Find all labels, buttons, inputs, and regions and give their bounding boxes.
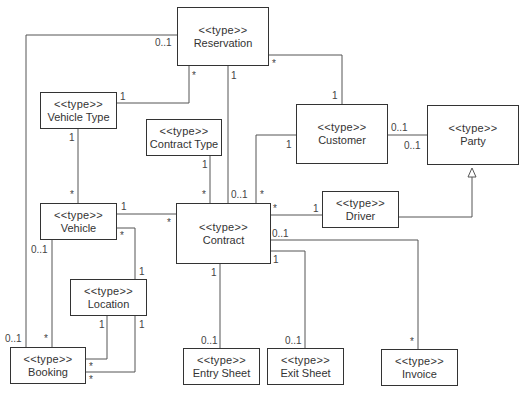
multiplicity-label: * <box>273 204 277 214</box>
multiplicity-label: * <box>120 231 124 241</box>
multiplicity-label: 1 <box>69 133 75 143</box>
class-name: Contract <box>203 234 245 247</box>
generalization-arrow-icon <box>468 168 476 177</box>
class-name: Driver <box>346 210 375 223</box>
multiplicity-label: * <box>202 190 206 200</box>
multiplicity-label: 1 <box>120 92 126 102</box>
class-party[interactable]: <<type>> Party <box>427 105 519 165</box>
class-driver[interactable]: <<type>> Driver <box>322 191 399 228</box>
class-name: Contract Type <box>150 138 218 151</box>
multiplicity-label: 0..1 <box>404 141 421 151</box>
multiplicity-label: * <box>272 59 276 69</box>
class-name: Party <box>460 135 486 148</box>
stereotype: <<type>> <box>84 285 133 298</box>
class-name: Invoice <box>402 368 437 381</box>
multiplicity-label: * <box>410 337 414 347</box>
class-location[interactable]: <<type>> Location <box>70 279 147 316</box>
multiplicity-label: 1 <box>313 204 319 214</box>
multiplicity-label: 0..1 <box>231 190 248 200</box>
multiplicity-label: * <box>89 375 93 385</box>
multiplicity-label: 1 <box>202 160 208 170</box>
class-name: Vehicle <box>61 222 96 235</box>
class-invoice[interactable]: <<type>> Invoice <box>381 349 458 386</box>
multiplicity-label: 1 <box>99 320 105 330</box>
stereotype: <<type>> <box>318 121 367 134</box>
multiplicity-label: 0..1 <box>285 336 302 346</box>
multiplicity-label: * <box>167 218 171 228</box>
class-entry-sheet[interactable]: <<type>> Entry Sheet <box>183 348 260 385</box>
stereotype: <<type>> <box>54 98 103 111</box>
stereotype: <<type>> <box>449 122 498 135</box>
stereotype: <<type>> <box>197 354 246 367</box>
stereotype: <<type>> <box>160 125 209 138</box>
class-name: Entry Sheet <box>193 367 250 380</box>
multiplicity-label: 0..1 <box>155 38 172 48</box>
class-vehicle[interactable]: <<type>> Vehicle <box>40 203 117 240</box>
class-name: Location <box>88 298 130 311</box>
multiplicity-label: 1 <box>121 202 127 212</box>
class-customer[interactable]: <<type>> Customer <box>296 104 388 164</box>
generalization-driver-party <box>398 177 472 217</box>
multiplicity-label: 0..1 <box>272 229 289 239</box>
stereotype: <<type>> <box>199 221 248 234</box>
stereotype: <<type>> <box>281 354 330 367</box>
assoc-vehicle-location <box>116 228 135 279</box>
multiplicity-label: * <box>192 71 196 81</box>
class-contract[interactable]: <<type>> Contract <box>176 203 271 264</box>
multiplicity-label: 0..1 <box>31 245 48 255</box>
multiplicity-label: 1 <box>139 267 145 277</box>
assoc-reservation-vehicletype <box>116 66 189 103</box>
stereotype: <<type>> <box>199 24 248 37</box>
multiplicity-label: 1 <box>286 140 292 150</box>
multiplicity-label: 1 <box>139 320 145 330</box>
assoc-contract-exitsheet <box>270 251 305 348</box>
class-name: Exit Sheet <box>280 367 330 380</box>
class-reservation[interactable]: <<type>> Reservation <box>177 7 269 66</box>
class-booking[interactable]: <<type>> Booking <box>10 347 86 384</box>
stereotype: <<type>> <box>395 355 444 368</box>
multiplicity-label: 0..1 <box>201 336 218 346</box>
class-contract-type[interactable]: <<type>> Contract Type <box>146 119 222 156</box>
multiplicity-label: 1 <box>231 71 237 81</box>
multiplicity-label: * <box>44 334 48 344</box>
multiplicity-label: 1 <box>211 268 217 278</box>
multiplicity-label: 0..1 <box>5 334 22 344</box>
stereotype: <<type>> <box>54 209 103 222</box>
stereotype: <<type>> <box>336 197 385 210</box>
multiplicity-label: 1 <box>332 91 338 101</box>
multiplicity-label: 0..1 <box>391 123 408 133</box>
class-name: Reservation <box>194 37 253 50</box>
multiplicity-label: * <box>260 190 264 200</box>
class-name: Customer <box>318 134 366 147</box>
class-vehicle-type[interactable]: <<type>> Vehicle Type <box>40 92 117 129</box>
class-name: Booking <box>28 366 68 379</box>
class-name: Vehicle Type <box>47 111 109 124</box>
assoc-contract-invoice <box>270 240 418 349</box>
multiplicity-label: * <box>70 190 74 200</box>
assoc-reservation-customer <box>268 55 342 104</box>
class-exit-sheet[interactable]: <<type>> Exit Sheet <box>267 348 344 385</box>
multiplicity-label: * <box>89 362 93 372</box>
multiplicity-label: 1 <box>273 255 279 265</box>
stereotype: <<type>> <box>24 353 73 366</box>
